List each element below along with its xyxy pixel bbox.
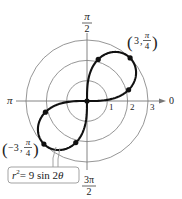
svg-text:): ) (33, 140, 39, 159)
tick-2: 2 (130, 102, 135, 112)
point-neg-pi12 (43, 110, 48, 115)
equation-text: r2= 9 sin 2θ (12, 168, 64, 181)
top-axis-label: π 2 (82, 10, 92, 34)
right-axis-label: 0 (169, 95, 174, 106)
upper-point-label: ( 3 , π 4 ) (127, 30, 158, 52)
svg-text:2: 2 (85, 23, 90, 34)
arrow-right-icon (159, 99, 166, 104)
point-pi12 (126, 87, 131, 92)
point-3-pi4 (128, 55, 133, 60)
svg-text:2: 2 (87, 186, 92, 197)
svg-text:3π: 3π (84, 174, 94, 185)
svg-text:4: 4 (26, 148, 31, 158)
svg-text:,: , (140, 35, 143, 46)
svg-text:4: 4 (145, 41, 150, 51)
svg-text:π: π (84, 10, 90, 22)
svg-text:(: ( (127, 33, 133, 52)
point-5pi12 (96, 57, 101, 62)
svg-text:π: π (26, 137, 31, 147)
svg-text:3: 3 (134, 35, 139, 46)
pole-point (84, 98, 89, 103)
tick-3: 3 (150, 102, 155, 112)
point-neg3-pi4 (41, 142, 46, 147)
svg-text:π: π (145, 30, 150, 40)
lower-point-label: ( −3 , π 4 ) (2, 137, 39, 159)
tick-1: 1 (109, 102, 114, 112)
left-axis-label: π (7, 94, 13, 106)
svg-text:): ) (152, 33, 158, 52)
point-neg-5pi12 (73, 140, 78, 145)
bottom-axis-label: 3π 2 (82, 174, 96, 197)
svg-text:−3: −3 (8, 142, 19, 153)
svg-text:,: , (20, 142, 23, 153)
polar-graph: π 2 3π 2 π 0 1 2 3 ( 3 , π 4 ) ( −3 , π … (0, 0, 182, 199)
